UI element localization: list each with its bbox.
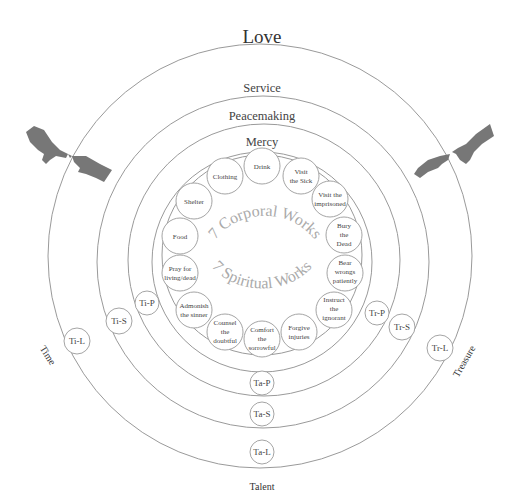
work-counsel: Counsel the doubtful [207, 314, 243, 350]
svg-text:Instruct: Instruct [323, 296, 344, 304]
love-diagram: Love Service Peacemaking Mercy 7 Corpora… [0, 0, 522, 499]
svg-text:Drink: Drink [254, 163, 271, 171]
svg-text:Tr-P: Tr-P [369, 308, 385, 318]
svg-text:patiently: patiently [333, 277, 358, 285]
svg-text:ignorant: ignorant [322, 314, 345, 322]
svg-text:Comfort: Comfort [250, 326, 274, 334]
svg-text:Tr-L: Tr-L [432, 343, 449, 353]
svg-text:Ti-S: Ti-S [111, 316, 127, 326]
work-pray: Pray for living/dead [162, 255, 198, 291]
svg-text:Ti-L: Ti-L [69, 336, 85, 346]
work-bury-dead: Bury the Dead [326, 217, 362, 253]
svg-text:the: the [330, 305, 339, 313]
svg-text:Ta-L: Ta-L [253, 447, 270, 457]
svg-text:Clothing: Clothing [213, 173, 238, 181]
svg-text:the sinner: the sinner [180, 311, 208, 319]
work-admonish: Admonish the sinner [176, 292, 212, 328]
svg-text:Tr-S: Tr-S [394, 322, 410, 332]
work-visit-imprisoned: Visit the imprisoned [312, 181, 348, 217]
svg-text:the Sick: the Sick [290, 177, 313, 185]
work-forgive: Forgive injuries [281, 314, 317, 350]
marker-time-service: Ti-S [106, 308, 132, 334]
work-instruct: Instruct the ignorant [316, 292, 352, 328]
svg-text:Dead: Dead [337, 240, 352, 248]
marker-talent-peacemaking: Ta-P [250, 371, 274, 395]
work-visit-sick: Visit the Sick [283, 158, 319, 194]
svg-text:the: the [221, 328, 230, 336]
label-treasure: Treasure [451, 343, 478, 379]
marker-talent-service: Ta-S [250, 402, 274, 426]
marker-time-love: Ti-L [64, 328, 90, 354]
svg-text:Visit the: Visit the [318, 191, 342, 199]
work-clothing: Clothing [207, 158, 243, 194]
svg-text:Counsel: Counsel [214, 319, 237, 327]
label-corporal-works: 7 Corporal Works [205, 202, 326, 242]
hands-image-left [26, 126, 112, 182]
svg-text:injuries: injuries [289, 333, 310, 341]
marker-talent-love: Ta-L [250, 440, 274, 464]
svg-text:Bear: Bear [338, 259, 352, 267]
svg-text:wrongs: wrongs [335, 268, 356, 276]
work-bear-wrongs: Bear wrongs patiently [327, 255, 363, 291]
svg-text:living/dead: living/dead [164, 274, 196, 282]
svg-text:imprisoned: imprisoned [314, 200, 346, 208]
work-shelter: Shelter [176, 183, 212, 219]
label-peacemaking: Peacemaking [229, 109, 296, 123]
label-time: Time [38, 343, 59, 367]
label-talent: Talent [250, 481, 275, 492]
svg-text:Pray for: Pray for [169, 265, 192, 273]
work-comfort: Comfort the sorrowful [244, 321, 280, 357]
svg-text:the: the [340, 231, 349, 239]
svg-text:Forgive: Forgive [288, 324, 310, 332]
svg-text:Ta-S: Ta-S [254, 409, 271, 419]
svg-text:sorrowful: sorrowful [248, 344, 275, 352]
svg-text:Bury: Bury [337, 222, 352, 230]
marker-time-peacemaking: Ti-P [135, 291, 159, 315]
svg-text:Ti-P: Ti-P [139, 298, 155, 308]
label-mercy: Mercy [246, 135, 279, 149]
work-food: Food [162, 218, 198, 254]
label-love: Love [242, 26, 281, 47]
svg-text:Shelter: Shelter [184, 198, 204, 206]
svg-text:Food: Food [173, 233, 188, 241]
label-service: Service [243, 81, 281, 95]
marker-treasure-love: Tr-L [427, 335, 453, 361]
svg-text:doubtful: doubtful [213, 337, 237, 345]
svg-text:Admonish: Admonish [179, 302, 209, 310]
marker-treasure-peacemaking: Tr-P [365, 301, 389, 325]
svg-text:Visit: Visit [294, 168, 307, 176]
label-spiritual-works: 7 Spiritual Works [209, 257, 314, 291]
work-drink: Drink [244, 148, 280, 184]
svg-text:Ta-P: Ta-P [254, 378, 271, 388]
svg-text:the: the [258, 335, 267, 343]
marker-treasure-service: Tr-S [389, 314, 415, 340]
